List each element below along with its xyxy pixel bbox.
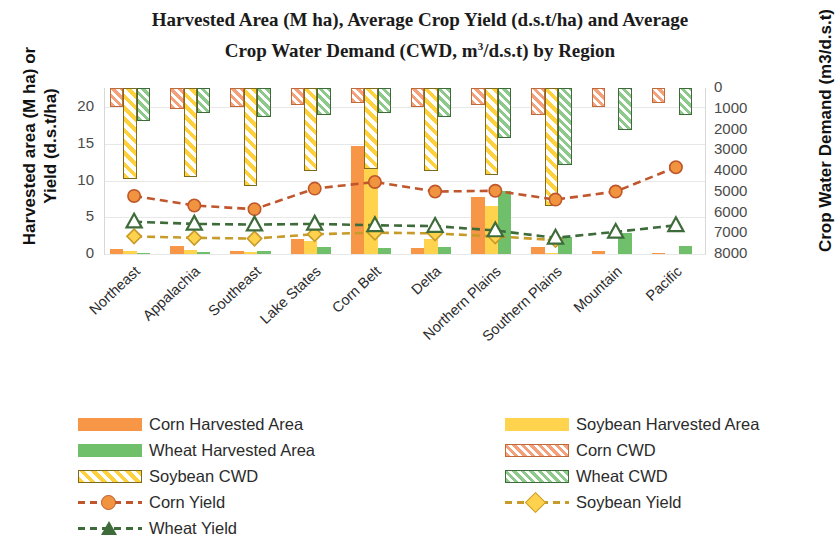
y-axis-tick-label: 0 xyxy=(58,244,94,261)
legend-item-label: Corn Yield xyxy=(149,493,225,512)
legend-item-wheat-yield[interactable]: Wheat Yield xyxy=(78,516,237,540)
x-axis-tick-label: Mountain xyxy=(504,263,625,377)
chart-legend: Corn Harvested AreaWheat Harvested AreaS… xyxy=(0,412,839,552)
legend-item-corn-cwd[interactable]: Corn CWD xyxy=(505,438,656,462)
legend-item-wheat-cwd[interactable]: Wheat CWD xyxy=(505,464,668,488)
marker-corn-yield xyxy=(128,190,140,202)
legend-item-label: Wheat Yield xyxy=(149,519,237,538)
marker-corn-yield xyxy=(309,182,321,194)
legend-line-swatch xyxy=(78,494,142,510)
legend-item-soybean-yield[interactable]: Soybean Yield xyxy=(505,490,682,514)
x-axis-tick-label: Southeast xyxy=(143,263,264,377)
legend-color-swatch xyxy=(78,418,142,431)
x-axis-tick-label: Northern Plains xyxy=(384,263,505,377)
x-axis-tick-label: Delta xyxy=(323,263,444,377)
x-axis-tick-label: Appalachia xyxy=(83,263,204,377)
secondary-y-axis-tick-label: 5000 xyxy=(714,182,768,199)
line-corn-yield xyxy=(134,167,676,209)
secondary-y-axis-tick-label: 1000 xyxy=(714,99,768,116)
legend-marker-diamond-icon xyxy=(525,492,546,513)
secondary-y-axis-tick-label: 4000 xyxy=(714,161,768,178)
secondary-y-axis-tick-label: 8000 xyxy=(714,244,768,261)
chart-title-line-2a: Crop Water Demand (CWD, m xyxy=(225,40,478,61)
legend-item-soybean-harvested-area[interactable]: Soybean Harvested Area xyxy=(505,412,759,436)
y-axis-tick-label: 5 xyxy=(58,207,94,224)
marker-corn-yield xyxy=(248,203,260,215)
marker-soybean-yield xyxy=(127,229,141,243)
legend-item-label: Soybean Yield xyxy=(576,493,682,512)
legend-item-label: Soybean CWD xyxy=(149,467,258,486)
chart-title-line-1: Harvested Area (M ha), Average Crop Yiel… xyxy=(152,9,689,30)
secondary-y-axis-tick-label: 2000 xyxy=(714,120,768,137)
legend-marker-circle-icon xyxy=(101,495,116,510)
line-series-group xyxy=(104,88,706,255)
legend-item-label: Wheat CWD xyxy=(576,467,668,486)
legend-color-swatch xyxy=(505,470,569,483)
secondary-y-axis-tick-label: 6000 xyxy=(714,203,768,220)
legend-item-label: Corn CWD xyxy=(576,441,656,460)
legend-color-swatch xyxy=(505,418,569,431)
legend-item-corn-harvested-area[interactable]: Corn Harvested Area xyxy=(78,412,303,436)
marker-wheat-yield xyxy=(428,218,443,232)
x-axis-tick-label: Pacific xyxy=(564,263,685,377)
marker-corn-yield xyxy=(429,185,441,197)
y-axis-tick-label: 15 xyxy=(58,134,94,151)
legend-line-swatch xyxy=(78,520,142,536)
legend-item-label: Corn Harvested Area xyxy=(149,415,303,434)
marker-wheat-yield xyxy=(127,214,142,228)
legend-item-label: Soybean Harvested Area xyxy=(576,415,759,434)
y-axis-title: Harvested area (M ha) or Yield (d.s.t/ha… xyxy=(19,26,61,266)
legend-color-swatch xyxy=(505,444,569,457)
marker-corn-yield xyxy=(489,185,501,197)
marker-wheat-yield xyxy=(668,217,683,231)
legend-line-swatch xyxy=(505,494,569,510)
secondary-y-axis-tick-label: 3000 xyxy=(714,140,768,157)
x-axis-tick-label: Southern Plains xyxy=(444,263,565,377)
legend-color-swatch xyxy=(78,470,142,483)
marker-corn-yield xyxy=(610,185,622,197)
secondary-y-axis-tick-label: 7000 xyxy=(714,223,768,240)
marker-corn-yield xyxy=(188,199,200,211)
x-axis-tick-label: Lake States xyxy=(203,263,324,377)
marker-corn-yield xyxy=(549,193,561,205)
secondary-y-axis-tick-label: 0 xyxy=(714,78,768,95)
y-axis-tick-label: 20 xyxy=(58,97,94,114)
marker-soybean-yield xyxy=(247,231,261,245)
x-axis-tick-label: Corn Belt xyxy=(263,263,384,377)
marker-corn-yield xyxy=(670,161,682,173)
legend-marker-triangle-icon xyxy=(101,521,117,535)
line-wheat-yield xyxy=(134,222,676,238)
marker-wheat-yield xyxy=(247,217,262,231)
legend-color-swatch xyxy=(78,444,142,457)
chart-container: Harvested Area (M ha), Average Crop Yiel… xyxy=(0,0,839,553)
secondary-y-axis-title: Crop Water Demand (m3/d.s.t) xyxy=(815,6,836,256)
legend-item-wheat-harvested-area[interactable]: Wheat Harvested Area xyxy=(78,438,315,462)
legend-item-corn-yield[interactable]: Corn Yield xyxy=(78,490,225,514)
chart-title: Harvested Area (M ha), Average Crop Yiel… xyxy=(70,6,770,64)
chart-title-line-2b: /d.s.t) by Region xyxy=(483,40,615,61)
y-axis-tick-label: 10 xyxy=(58,171,94,188)
marker-corn-yield xyxy=(369,176,381,188)
marker-soybean-yield xyxy=(187,231,201,245)
legend-item-label: Wheat Harvested Area xyxy=(149,441,315,460)
legend-item-soybean-cwd[interactable]: Soybean CWD xyxy=(78,464,258,488)
plot-area xyxy=(104,88,706,255)
x-axis-tick-label: Northeast xyxy=(22,263,143,377)
